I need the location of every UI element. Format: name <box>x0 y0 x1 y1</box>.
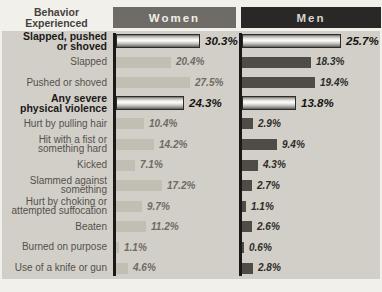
women-value: 11.2% <box>151 216 179 237</box>
men-value: 25.7% <box>346 31 379 52</box>
women-bar <box>116 263 128 274</box>
behavior-header-line2: Experienced <box>25 18 87 29</box>
chart-row: Slapped20.4%18.3% <box>2 52 380 73</box>
women-value: 24.3% <box>189 93 222 114</box>
men-bar <box>242 160 258 171</box>
women-bar <box>116 221 146 232</box>
men-value: 2.7% <box>257 175 280 196</box>
row-label: Pushed or shoved <box>2 72 107 93</box>
row-label: Hurt by pulling hair <box>2 113 107 134</box>
women-value: 7.1% <box>140 155 163 176</box>
chart-row: Slapped, pushed or shoved30.3%25.7% <box>2 31 380 52</box>
chart-row: Hurt by pulling hair10.4%2.9% <box>2 113 380 134</box>
women-bar <box>116 242 119 253</box>
row-label: Kicked <box>2 155 107 176</box>
men-bar <box>242 180 252 191</box>
row-label: Beaten <box>2 216 107 237</box>
men-value: 13.8% <box>301 93 334 114</box>
men-value: 19.4% <box>320 72 348 93</box>
men-bar <box>242 96 296 110</box>
women-column-header: Women <box>113 7 236 28</box>
women-bar <box>116 118 144 129</box>
row-label: Burned on purpose <box>2 237 107 258</box>
men-value: 1.1% <box>251 196 274 217</box>
men-value: 9.4% <box>282 134 305 155</box>
women-value: 17.2% <box>167 175 195 196</box>
women-value: 30.3% <box>205 31 238 52</box>
women-value: 10.4% <box>149 113 177 134</box>
women-bar <box>116 77 190 88</box>
row-label: Hit with a fist or something hard <box>2 134 107 155</box>
men-bar <box>242 118 253 129</box>
row-label: Hurt by choking or attempted suffocation <box>2 196 107 217</box>
women-bar <box>116 180 162 191</box>
men-bar <box>242 263 253 274</box>
women-bar <box>116 96 184 110</box>
women-value: 14.2% <box>159 134 187 155</box>
women-bar <box>116 139 154 150</box>
row-label: Any severe physical violence <box>2 93 107 114</box>
women-bar <box>116 201 142 212</box>
behavior-experienced-header: Behavior Experienced <box>2 5 111 31</box>
chart-rows: Slapped, pushed or shoved30.3%25.7%Slapp… <box>2 31 380 278</box>
women-value: 9.7% <box>147 196 170 217</box>
chart-row: Hurt by choking or attempted suffocation… <box>2 196 380 217</box>
men-bar <box>242 201 246 212</box>
row-label: Use of a knife or gun <box>2 258 107 279</box>
men-value: 2.6% <box>257 216 280 237</box>
men-value: 0.6% <box>249 237 272 258</box>
men-value: 2.9% <box>258 113 281 134</box>
women-bar <box>116 160 135 171</box>
chart-row: Kicked7.1%4.3% <box>2 155 380 176</box>
women-value: 27.5% <box>195 72 223 93</box>
chart-row: Any severe physical violence24.3%13.8% <box>2 93 380 114</box>
men-bar <box>242 57 311 68</box>
chart-row: Pushed or shoved27.5%19.4% <box>2 72 380 93</box>
chart-row: Beaten11.2%2.6% <box>2 216 380 237</box>
men-column-header: Men <box>241 7 381 28</box>
women-bar <box>116 34 200 48</box>
chart-panel: Slapped, pushed or shoved30.3%25.7%Slapp… <box>2 31 380 279</box>
chart-page: { "header": { "behavior_line1": "Behavio… <box>0 0 382 292</box>
chart-row: Hit with a fist or something hard14.2%9.… <box>2 134 380 155</box>
men-bar <box>242 242 244 253</box>
men-value: 2.8% <box>258 258 281 279</box>
men-bar <box>242 139 277 150</box>
men-bar <box>242 34 341 48</box>
women-bar <box>116 57 171 68</box>
men-bar <box>242 221 252 232</box>
row-label: Slammed against something <box>2 175 107 196</box>
chart-row: Burned on purpose1.1%0.6% <box>2 237 380 258</box>
men-bar <box>242 77 315 88</box>
men-value: 18.3% <box>316 52 344 73</box>
row-label: Slapped, pushed or shoved <box>2 31 107 52</box>
men-value: 4.3% <box>263 155 286 176</box>
women-value: 4.6% <box>133 258 156 279</box>
chart-row: Slammed against something17.2%2.7% <box>2 175 380 196</box>
row-label: Slapped <box>2 52 107 73</box>
women-value: 1.1% <box>124 237 147 258</box>
chart-row: Use of a knife or gun4.6%2.8% <box>2 258 380 279</box>
women-value: 20.4% <box>176 52 204 73</box>
